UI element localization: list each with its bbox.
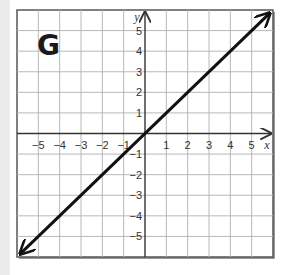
x-tick-label: −3 xyxy=(75,139,88,151)
x-tick-label: 5 xyxy=(249,139,255,151)
y-tick-label: −5 xyxy=(129,230,142,242)
y-tick-label: 2 xyxy=(136,86,142,98)
x-tick-label: −5 xyxy=(32,139,45,151)
y-tick-label: 5 xyxy=(136,25,142,37)
y-axis-label: y xyxy=(133,10,140,24)
figure-label: G xyxy=(37,29,60,62)
y-tick-label: 1 xyxy=(136,107,142,119)
y-tick-label: −2 xyxy=(129,169,142,181)
x-tick-label: 2 xyxy=(185,139,191,151)
y-tick-label: 4 xyxy=(136,45,142,57)
y-tick-label: −4 xyxy=(129,210,142,222)
coordinate-plane: −5−4−3−2−11234554321−1−2−3−4−5xyG xyxy=(0,0,291,275)
y-tick-label: −1 xyxy=(129,148,142,160)
y-tick-label: −3 xyxy=(129,189,142,201)
x-tick-label: 1 xyxy=(163,139,169,151)
x-axis-label: x xyxy=(263,138,270,152)
y-tick-label: 3 xyxy=(136,66,142,78)
x-tick-label: −4 xyxy=(53,139,66,151)
x-tick-label: 4 xyxy=(227,139,233,151)
x-tick-label: 3 xyxy=(206,139,212,151)
x-tick-label: −2 xyxy=(96,139,109,151)
